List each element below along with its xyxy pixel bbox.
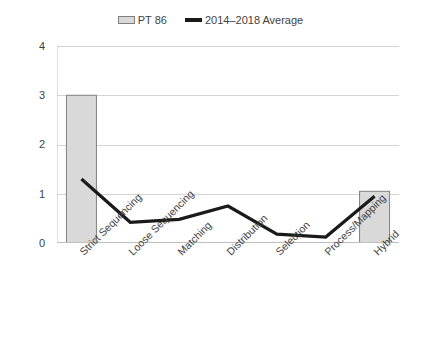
legend-entry-average[interactable]: 2014–2018 Average [185,14,303,26]
y-tick-label-3: 3 [39,90,45,101]
legend-label-average: 2014–2018 Average [205,14,303,26]
y-tick-label-2: 2 [39,139,45,150]
bar-swatch-icon [118,16,135,24]
bar-line-combo-chart: PT 86 2014–2018 Average 4 3 2 1 0 Strict… [0,0,421,348]
y-tick-label-4: 4 [39,41,45,52]
legend-entry-pt-86[interactable]: PT 86 [118,14,167,26]
y-tick-label-1: 1 [39,189,45,200]
axis-lines [57,46,399,243]
gridlines [57,47,399,195]
legend-label-pt-86: PT 86 [138,14,167,26]
chart-legend: PT 86 2014–2018 Average [0,14,421,26]
plot-area [57,46,399,243]
x-axis: Strict SequencingLoose SequencingMatchin… [0,243,421,348]
plot-svg [57,46,399,243]
line-swatch-icon [185,18,202,22]
bar-0 [66,95,96,243]
